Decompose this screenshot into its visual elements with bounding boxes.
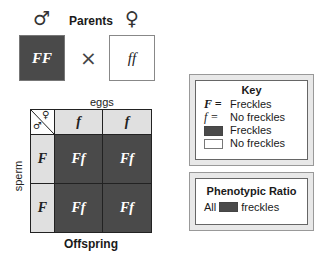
key-entry: Freckles [204, 124, 299, 137]
corner-female-icon: ♀ [42, 109, 49, 120]
offspring-cell: Ff [103, 135, 152, 184]
key-panel: Key F = Freckles f = No freckles Freckle… [189, 74, 314, 166]
parents-title: Parents [69, 14, 113, 28]
offspring-label: Offspring [64, 237, 118, 251]
key-label: No freckles [230, 111, 285, 124]
row-header: F [31, 135, 55, 184]
ratio-suffix: freckles [241, 201, 279, 213]
key-entry: f = No freckles [204, 111, 299, 124]
corner-male-icon: ♂ [33, 120, 42, 131]
male-parent-genotype: FF [19, 35, 65, 81]
eggs-label: eggs [90, 96, 114, 108]
offspring-cell: Ff [55, 184, 103, 233]
key-entry: No freckles [204, 137, 299, 150]
key-label: Freckles [230, 124, 272, 137]
offspring-cell: Ff [103, 184, 152, 233]
dark-swatch-icon [204, 126, 223, 136]
ratio-title: Phenotypic Ratio [204, 185, 299, 197]
ratio-prefix: All [204, 201, 216, 213]
ratio-text: All freckles [204, 201, 299, 213]
row-header: F [31, 184, 55, 233]
punnett-square: ♀ ♂ f f F Ff Ff F Ff Ff [30, 109, 152, 233]
key-title: Key [204, 84, 299, 96]
female-symbol-icon: ♀ [125, 9, 139, 28]
column-header: f [55, 110, 103, 135]
key-label: No freckles [230, 137, 285, 150]
ratio-panel: Phenotypic Ratio All freckles [189, 172, 314, 231]
female-parent-genotype: ff [109, 35, 155, 81]
corner-cell: ♀ ♂ [31, 110, 55, 135]
key-entry: F = Freckles [204, 98, 299, 111]
key-label: Freckles [230, 98, 272, 111]
cross-icon: × [80, 46, 97, 70]
light-swatch-icon [204, 139, 223, 149]
sperm-label: sperm [12, 161, 24, 192]
offspring-cell: Ff [55, 135, 103, 184]
male-genotype-text: FF [32, 50, 52, 67]
key-symbol: f = [204, 111, 230, 124]
female-genotype-text: ff [128, 50, 136, 67]
dark-swatch-icon [219, 202, 238, 212]
male-symbol-icon: ♂ [33, 9, 50, 28]
column-header: f [103, 110, 152, 135]
